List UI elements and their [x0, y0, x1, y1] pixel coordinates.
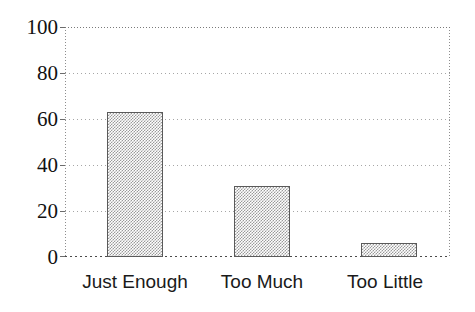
y-axis-tick-label-60: 60 [37, 109, 58, 130]
y-tick-20 [60, 211, 65, 212]
y-axis-tick-label-100: 100 [27, 17, 59, 38]
plot-area [65, 27, 450, 257]
y-tick-0 [60, 256, 65, 257]
y-axis-tick-label-20: 20 [37, 201, 58, 222]
y-tick-60 [60, 119, 65, 120]
y-axis-line [65, 27, 66, 257]
y-tick-100 [60, 27, 65, 28]
bar-just-enough [107, 112, 163, 257]
x-axis-tick-label-too-much: Too Much [207, 272, 317, 291]
bar-too-little [361, 243, 417, 257]
x-axis-tick-label-just-enough: Just Enough [65, 272, 205, 291]
y-axis-tick-label-0: 0 [48, 247, 59, 268]
y-axis-tick-label-80: 80 [37, 63, 58, 84]
y-tick-80 [60, 73, 65, 74]
gridline-80 [65, 73, 450, 74]
y-tick-40 [60, 165, 65, 166]
y-axis: 100 80 60 40 20 0 [0, 0, 58, 312]
plot-right-border [449, 27, 450, 257]
gridline-100 [65, 27, 450, 28]
y-axis-tick-label-40: 40 [37, 155, 58, 176]
bar-chart: 100 80 60 40 20 0 [0, 0, 475, 312]
x-axis-tick-label-too-little: Too Little [330, 272, 440, 291]
bar-too-much [234, 186, 290, 257]
